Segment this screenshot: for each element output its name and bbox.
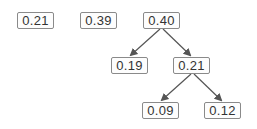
edge-040-to-019	[131, 29, 160, 55]
node-0-09-leaf: 0.09	[142, 102, 179, 119]
node-0-19-leaf: 0.19	[111, 57, 148, 74]
edge-021-to-012	[194, 74, 221, 100]
node-0-39-standalone: 0.39	[80, 12, 117, 29]
node-0-12-leaf: 0.12	[204, 102, 241, 119]
node-0-40-root: 0.40	[143, 12, 180, 29]
edge-021-to-009	[162, 74, 191, 100]
edge-040-to-021	[163, 29, 190, 55]
node-0-21-standalone: 0.21	[17, 12, 54, 29]
node-0-21-internal: 0.21	[173, 57, 210, 74]
